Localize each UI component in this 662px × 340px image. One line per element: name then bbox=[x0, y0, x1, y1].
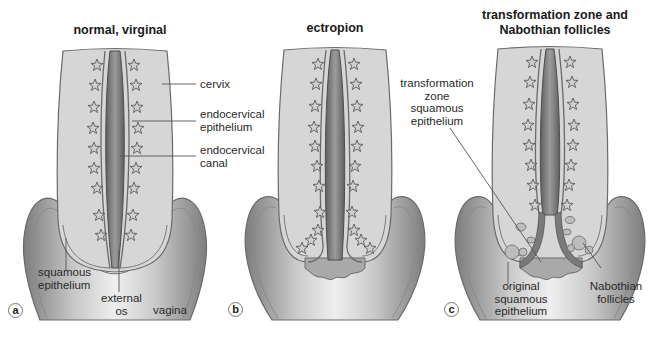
cervix-diagram-b bbox=[220, 0, 440, 340]
cropped-caption-strip bbox=[0, 333, 662, 340]
panel-letter-a: a bbox=[8, 303, 23, 318]
endocervical-canal bbox=[540, 49, 559, 215]
cervix-diagram-a bbox=[0, 0, 220, 340]
panel-a-normal-virginal: normal, virginal bbox=[0, 0, 220, 340]
panel-letter-b: b bbox=[228, 302, 243, 317]
panel-letter-c: c bbox=[444, 302, 459, 317]
endocervical-canal bbox=[106, 51, 125, 268]
panel-c-transformation-zone: transformation zone and Nabothian follic… bbox=[440, 0, 662, 340]
endocervical-canal bbox=[325, 50, 344, 260]
label-nabothian-follicles: Nabothian follicles bbox=[583, 280, 649, 305]
label-original-squamous-epithelium: original squamous epithelium bbox=[488, 280, 554, 318]
label-squamous-epithelium: squamous epithelium bbox=[38, 266, 91, 291]
panel-b-ectropion: ectropion bbox=[220, 0, 440, 340]
label-transformation-zone-squamous-epithelium: transformation zone squamous epithelium bbox=[387, 77, 487, 127]
label-vagina: vagina bbox=[153, 304, 187, 317]
label-external-os: external os bbox=[101, 292, 142, 317]
